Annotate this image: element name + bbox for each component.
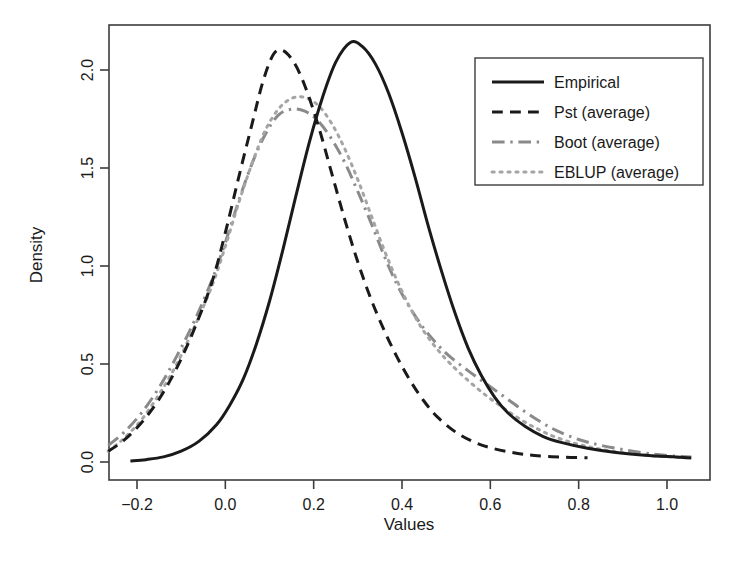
y-tick-label: 1.5 (79, 157, 96, 179)
y-tick-label: 1.0 (79, 255, 96, 277)
legend-label-empirical: Empirical (554, 74, 620, 91)
x-tick-label: 0.0 (214, 496, 236, 513)
x-tick-label: 0.2 (303, 496, 325, 513)
x-tick-label: 1.0 (656, 496, 678, 513)
x-axis-title: Values (384, 515, 435, 534)
legend-label-pst: Pst (average) (554, 104, 650, 121)
y-tick-label: 2.0 (79, 59, 96, 81)
y-axis-title: Density (27, 226, 46, 283)
plot-canvas: −0.20.00.20.40.60.81.0 0.00.51.01.52.0 V… (0, 0, 746, 567)
legend-label-boot: Boot (average) (554, 134, 660, 151)
legend-label-eblup: EBLUP (average) (554, 164, 679, 181)
x-tick-label: 0.6 (479, 496, 501, 513)
y-tick-label: 0.0 (79, 451, 96, 473)
x-tick-label: 0.8 (568, 496, 590, 513)
x-tick-label: −0.2 (121, 496, 153, 513)
x-tick-label: 0.4 (391, 496, 413, 513)
y-tick-label: 0.5 (79, 353, 96, 375)
legend: EmpiricalPst (average)Boot (average)EBLU… (475, 58, 703, 185)
density-plot-figure: −0.20.00.20.40.60.81.0 0.00.51.01.52.0 V… (0, 0, 746, 567)
